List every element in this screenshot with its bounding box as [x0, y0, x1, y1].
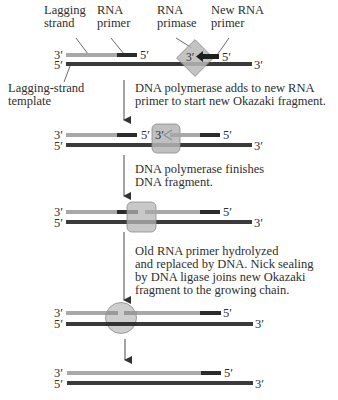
leader-lagging-strand-template [64, 66, 70, 82]
end-label-3prime: 3′ [254, 59, 263, 71]
end-label-5prime: 5′ [54, 318, 63, 330]
end-label-5prime: 5′ [54, 140, 63, 152]
leader-rna-primer [111, 38, 124, 54]
end-label-5prime: 5′ [222, 51, 231, 63]
end-label-5prime: 5′ [223, 129, 232, 141]
end-label-3prime: 3′ [254, 217, 263, 229]
end-label-3prime: 3′ [254, 140, 263, 152]
rna-primer-segment [117, 53, 137, 57]
new-rna-primer-segment [200, 133, 220, 137]
template-strand [66, 220, 252, 224]
end-label-5prime: 5′ [223, 307, 232, 319]
step-2-caption: DNA polymerase finishes DNA fragment. [135, 163, 264, 189]
okazaki-diagram-graphics [0, 0, 338, 400]
label-lagging-strand: Lagging strand [44, 4, 86, 30]
end-label-3prime: 3′ [155, 129, 164, 141]
dna-ligase-icon [106, 303, 137, 334]
joined-dna-segment [67, 371, 202, 375]
leader-lagging-strand [76, 38, 88, 54]
label-lagging-strand-template: Lagging-strand template [8, 82, 84, 108]
label-rna-primer: RNA primer [97, 4, 130, 30]
dna-polymerase-icon [127, 202, 156, 232]
end-label-3prime: 3′ [255, 378, 264, 390]
end-label-5prime: 5′ [141, 129, 150, 141]
label-rna-primase: RNA primase [157, 4, 197, 30]
step-1-caption: DNA polymerase adds to new RNA primer to… [135, 82, 326, 108]
template-strand [67, 381, 253, 385]
new-dna-segment [145, 210, 201, 214]
step-3-caption: Old RNA primer hydrolyzed and replaced b… [135, 245, 313, 297]
end-label-5prime: 5′ [140, 49, 149, 61]
template-strand [66, 322, 253, 326]
lagging-dna-segment [66, 53, 118, 57]
end-label-5prime: 5′ [54, 378, 63, 390]
label-new-rna-primer: New RNA primer [211, 4, 264, 30]
new-primer-bar [202, 54, 219, 59]
end-label-5prime: 5′ [223, 206, 232, 218]
new-dna-segment [170, 133, 201, 137]
end-label-5prime: 5′ [54, 59, 63, 71]
end-label-3prime: 3′ [186, 51, 194, 63]
end-label-3prime: 3′ [255, 318, 264, 330]
end-label-5prime: 5′ [224, 367, 233, 379]
end-label-5prime: 5′ [54, 217, 63, 229]
